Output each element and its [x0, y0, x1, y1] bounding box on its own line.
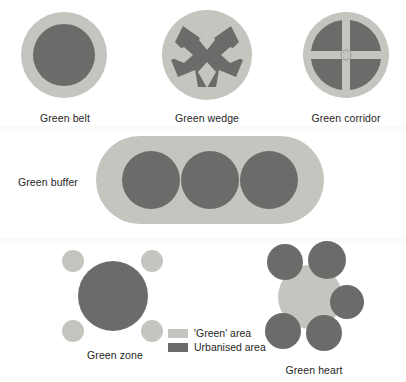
legend-swatch-green-area — [168, 329, 188, 338]
caption-green-belt: Green belt — [40, 112, 90, 124]
green-heart-urban-settlement-nw — [267, 244, 303, 280]
legend-item-urbanised-area: Urbanised area — [168, 342, 266, 353]
green-space-typologies-figure: Green belt Green wedge Green corridor Gr… — [0, 0, 406, 382]
green-zone-urban-core — [78, 261, 148, 331]
diagram-canvas — [0, 0, 406, 382]
green-heart-urban-settlement-ne — [308, 241, 346, 279]
legend: 'Green' area Urbanised area — [168, 328, 266, 353]
green-belt-urban-core — [33, 24, 95, 86]
diagram-green-corridor — [301, 10, 391, 100]
green-heart-urban-settlement-e — [330, 285, 364, 319]
diagram-green-buffer — [96, 136, 324, 224]
diagram-green-belt — [21, 12, 107, 98]
legend-swatch-urbanised-area — [168, 343, 188, 352]
caption-green-buffer: Green buffer — [18, 176, 78, 188]
diagram-green-heart — [265, 241, 364, 351]
caption-green-heart: Green heart — [285, 364, 342, 376]
green-zone-green-patch-nw — [62, 250, 84, 272]
legend-label-green-area: 'Green' area — [194, 328, 251, 339]
green-heart-urban-settlement-sw — [265, 313, 301, 349]
caption-green-wedge: Green wedge — [175, 112, 239, 124]
green-zone-green-patch-ne — [141, 250, 163, 272]
caption-green-corridor: Green corridor — [311, 112, 380, 124]
green-heart-urban-settlement-se — [306, 315, 342, 351]
legend-item-green-area: 'Green' area — [168, 328, 266, 339]
diagram-green-wedge — [162, 10, 252, 100]
green-buffer-urban-settlement-3 — [240, 151, 298, 209]
green-buffer-urban-settlement-2 — [181, 151, 239, 209]
green-buffer-urban-settlement-1 — [122, 151, 180, 209]
green-zone-green-patch-se — [141, 320, 163, 342]
caption-green-zone: Green zone — [87, 349, 143, 361]
diagram-green-zone — [62, 250, 163, 342]
legend-label-urbanised-area: Urbanised area — [194, 342, 266, 353]
green-zone-green-patch-sw — [62, 320, 84, 342]
